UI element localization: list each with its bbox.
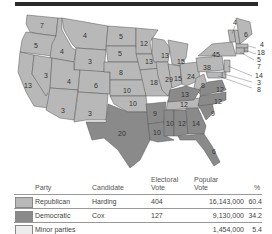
state-ct (236, 48, 244, 54)
svg-text:3: 3 (88, 110, 92, 117)
state-md (206, 72, 222, 78)
table-header: Party Candidate Electoral Vote Popular V… (14, 173, 262, 194)
header-popular-line1: Popular (194, 176, 218, 184)
header-popular-line2: Vote (194, 184, 218, 192)
vote-percent: 34.2 (248, 212, 262, 220)
svg-text:9: 9 (211, 110, 215, 117)
party-name: Minor parties (35, 226, 75, 234)
header-percent: % (254, 184, 260, 192)
svg-text:6: 6 (94, 82, 98, 89)
svg-text:10: 10 (123, 87, 131, 94)
democratic-swatch (15, 211, 33, 222)
electoral-vote: 404 (151, 198, 163, 206)
svg-text:20: 20 (118, 130, 126, 137)
svg-text:45: 45 (212, 51, 220, 58)
header-electoral-line2: Vote (151, 184, 178, 192)
svg-text:13: 13 (24, 82, 32, 89)
vote-percent: 60.4 (248, 198, 262, 206)
candidate-name: Harding (92, 198, 117, 206)
svg-text:7: 7 (40, 22, 44, 29)
svg-text:9: 9 (153, 110, 157, 117)
svg-text:3: 3 (88, 58, 92, 65)
svg-text:4: 4 (233, 19, 237, 26)
state-nm (74, 92, 108, 122)
svg-text:3: 3 (257, 79, 261, 86)
table-row-republican: Republican Harding 404 16,143,000 60.4 (14, 194, 262, 208)
state-nj (224, 60, 230, 72)
header-popular-vote: Popular Vote (194, 176, 218, 192)
svg-text:12: 12 (180, 101, 188, 108)
svg-text:15: 15 (174, 75, 182, 82)
party-name: Republican (35, 198, 70, 206)
table-row-minor-parties: Minor parties 1,454,000 5.4 (14, 222, 262, 234)
svg-text:5: 5 (257, 56, 261, 63)
svg-text:4: 4 (83, 32, 87, 39)
vote-percent: 5.4 (248, 226, 262, 234)
svg-text:13: 13 (145, 58, 153, 65)
svg-text:4: 4 (260, 41, 264, 48)
svg-text:18: 18 (257, 49, 265, 56)
svg-text:6: 6 (212, 148, 216, 155)
svg-text:5: 5 (34, 42, 38, 49)
state-az (46, 88, 78, 120)
state-ma (236, 44, 248, 48)
svg-text:13: 13 (181, 91, 189, 98)
svg-text:12: 12 (216, 86, 224, 93)
svg-text:4: 4 (67, 78, 71, 85)
table-row-democratic: Democratic Cox 127 9,130,000 34.2 (14, 208, 262, 222)
us-electoral-map: 7 5 13 4 3 4 3 4 3 6 3 5 5 8 10 10 20 12… (0, 0, 272, 170)
svg-text:14: 14 (192, 120, 200, 127)
svg-text:12: 12 (140, 40, 148, 47)
svg-text:14: 14 (255, 72, 263, 79)
svg-text:5: 5 (119, 33, 123, 40)
state-sd (106, 46, 138, 62)
svg-text:8: 8 (257, 86, 261, 93)
svg-text:10: 10 (129, 100, 137, 107)
header-party: Party (35, 184, 51, 192)
svg-text:24: 24 (187, 73, 195, 80)
svg-text:5: 5 (118, 50, 122, 57)
candidate-name: Cox (92, 212, 104, 220)
republican-swatch (15, 197, 33, 208)
svg-text:6: 6 (244, 31, 248, 38)
state-ne (104, 62, 144, 80)
popular-vote: 1,454,000 (192, 226, 244, 234)
electoral-vote: 127 (151, 212, 163, 220)
svg-text:8: 8 (201, 82, 205, 89)
svg-text:7: 7 (257, 63, 261, 70)
popular-vote: 16,143,000 (192, 198, 244, 206)
svg-text:18: 18 (150, 79, 158, 86)
svg-text:12: 12 (214, 98, 222, 105)
header-electoral-line1: Electoral (151, 176, 178, 184)
svg-text:13: 13 (161, 52, 169, 59)
popular-vote: 9,130,000 (192, 212, 244, 220)
header-electoral-vote: Electoral Vote (151, 176, 178, 192)
svg-text:38: 38 (203, 64, 211, 71)
svg-text:10: 10 (153, 129, 161, 136)
results-table: Party Candidate Electoral Vote Popular V… (14, 173, 262, 234)
state-de (222, 72, 226, 78)
svg-text:10: 10 (166, 120, 174, 127)
svg-text:3: 3 (61, 107, 65, 114)
svg-text:29: 29 (165, 76, 173, 83)
header-candidate: Candidate (92, 184, 124, 192)
svg-text:12: 12 (178, 120, 186, 127)
svg-text:8: 8 (119, 69, 123, 76)
svg-text:15: 15 (177, 58, 185, 65)
minor-parties-swatch (15, 225, 33, 234)
party-name: Democratic (35, 212, 70, 220)
svg-text:3: 3 (44, 72, 48, 79)
svg-text:4: 4 (60, 48, 64, 55)
